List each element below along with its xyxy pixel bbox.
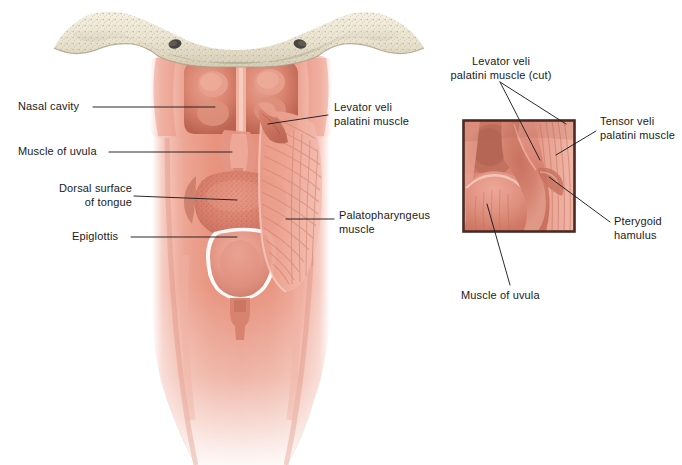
leader-levator-cut-a	[500, 82, 566, 124]
label-tensor-veli-palatini-muscle: Tensor veli palatini muscle	[600, 115, 682, 142]
label-muscle-of-uvula-inset: Muscle of uvula	[461, 289, 561, 303]
anatomy-figure: Nasal cavity Muscle of uvula Dorsal surf…	[0, 0, 682, 465]
sphenoid-bone-base	[54, 11, 424, 67]
inset-illustration	[463, 120, 575, 232]
label-muscle-of-uvula-left: Muscle of uvula	[18, 145, 114, 159]
label-dorsal-surface-of-tongue: Dorsal surface of tongue	[30, 182, 132, 209]
label-nasal-cavity: Nasal cavity	[18, 100, 94, 114]
label-pterygoid-hamulus: Pterygoid hamulus	[614, 215, 680, 242]
label-levator-veli-palatini-muscle: Levator veli palatini muscle	[334, 101, 430, 128]
label-epiglottis: Epiglottis	[72, 230, 134, 244]
label-palatopharyngeus-muscle: Palatopharyngeus muscle	[339, 209, 449, 236]
label-levator-veli-palatini-muscle-cut: Levator veli palatini muscle (cut)	[430, 55, 572, 82]
